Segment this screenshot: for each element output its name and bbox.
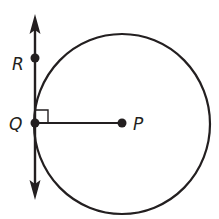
label-Q: Q — [9, 114, 22, 134]
point-P — [118, 119, 127, 128]
geometry-diagram: R Q P — [0, 0, 219, 219]
label-R: R — [12, 54, 24, 74]
point-R — [31, 54, 40, 63]
label-P: P — [133, 114, 144, 134]
point-Q — [31, 119, 40, 128]
